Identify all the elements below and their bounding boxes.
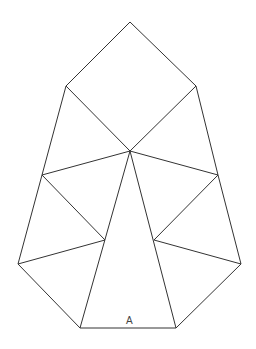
edge [66,22,130,86]
edge [154,240,241,264]
geometric-net-diagram: A [0,0,256,349]
edge [130,151,176,328]
edge [42,175,105,240]
label-a: A [126,315,133,326]
edge [218,175,241,264]
edge [130,22,196,86]
edge [130,151,218,175]
edge [154,175,218,240]
edge [18,264,80,328]
edge [130,86,196,151]
edge [18,175,42,264]
edge [18,240,105,264]
edge [196,86,218,175]
edge [176,264,241,328]
edge [80,151,130,328]
edge [66,86,130,151]
diagram-lines [0,0,256,349]
edge [42,151,130,175]
edge [42,86,66,175]
